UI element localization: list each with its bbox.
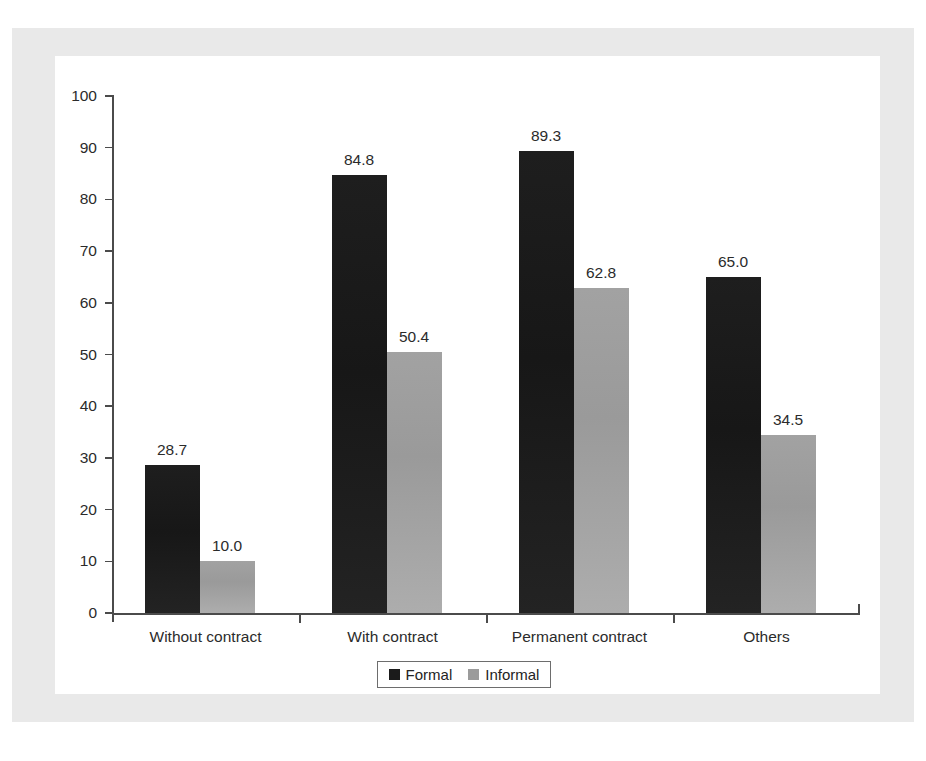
legend-swatch-informal-icon [468,669,479,680]
bar-value-label: 28.7 [133,441,212,459]
x-axis-end-tick [858,604,860,615]
y-tick-label: 70 [57,243,97,259]
x-tick-mark [486,614,488,623]
bar-informal-0[interactable] [200,561,255,613]
bar-informal-3[interactable] [761,435,816,613]
y-tick-mark [105,561,113,563]
page-border-right [880,28,914,722]
chart-canvas: 0102030405060708090100 28.710.084.850.48… [55,56,880,694]
y-tick-mark [105,405,113,407]
y-tick-mark [105,250,113,252]
plot-area: 0102030405060708090100 28.710.084.850.48… [55,56,880,694]
y-tick-mark [105,457,113,459]
page-border-bottom [12,694,914,722]
page-border-left [12,28,55,722]
legend-label-informal: Informal [485,667,539,682]
y-tick-mark [105,354,113,356]
legend-swatch-formal-icon [389,669,400,680]
y-tick-label: 80 [57,191,97,207]
y-tick-label: 10 [57,553,97,569]
chart-legend: Formal Informal [377,661,551,688]
y-tick-label: 30 [57,450,97,466]
bar-value-label: 10.0 [188,537,267,555]
page-border-top [12,28,914,56]
category-label-0: Without contract [112,628,299,646]
y-tick-mark [105,509,113,511]
y-tick-label: 50 [57,347,97,363]
bar-value-label: 50.4 [375,328,454,346]
y-tick-mark [105,147,113,149]
x-tick-mark [673,614,675,623]
bar-value-label: 89.3 [507,127,586,145]
y-tick-mark [105,95,113,97]
legend-entry-formal[interactable]: Formal [389,667,453,682]
bar-value-label: 62.8 [562,264,641,282]
bar-value-label: 84.8 [320,151,399,169]
y-tick-label: 60 [57,295,97,311]
bar-informal-1[interactable] [387,352,442,613]
y-tick-mark [105,199,113,201]
category-label-2: Permanent contract [486,628,673,646]
legend-label-formal: Formal [406,667,453,682]
y-tick-label: 0 [57,605,97,621]
bar-value-label: 65.0 [694,253,773,271]
y-tick-label: 40 [57,398,97,414]
y-tick-label: 90 [57,140,97,156]
bar-formal-1[interactable] [332,175,387,613]
x-tick-mark [299,614,301,623]
bar-formal-2[interactable] [519,151,574,613]
y-tick-mark [105,302,113,304]
y-tick-mark [105,612,113,614]
bar-value-label: 34.5 [749,411,828,429]
bar-formal-3[interactable] [706,277,761,613]
category-label-3: Others [673,628,860,646]
legend-entry-informal[interactable]: Informal [468,667,539,682]
category-label-1: With contract [299,628,486,646]
y-tick-label: 100 [57,88,97,104]
x-axis-origin-tick [112,606,114,622]
y-tick-label: 20 [57,502,97,518]
bar-informal-2[interactable] [574,288,629,613]
scanned-page: 0102030405060708090100 28.710.084.850.48… [0,0,926,761]
